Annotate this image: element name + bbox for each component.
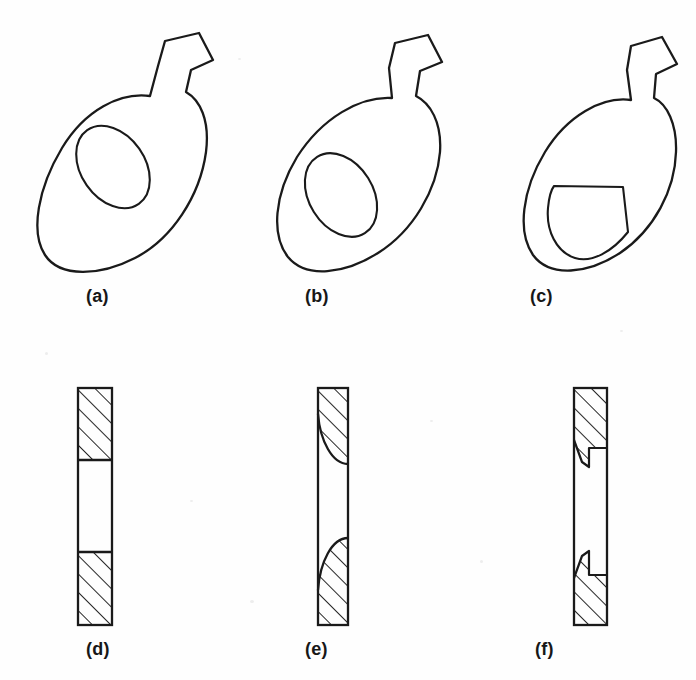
panel-b-drawing bbox=[277, 35, 442, 271]
panel-e-drawing bbox=[318, 388, 348, 625]
caption-e: (e) bbox=[305, 639, 328, 660]
panel-d-upper-hatch bbox=[78, 388, 112, 460]
panel-c-drawing bbox=[524, 37, 677, 271]
caption-c: (c) bbox=[530, 286, 553, 307]
caption-d: (d) bbox=[86, 639, 110, 660]
panel-a-drawing bbox=[37, 33, 213, 272]
panel-d-lower-hatch bbox=[78, 552, 112, 625]
panel-e-lower-hatch bbox=[318, 538, 348, 625]
figure-root: (a) (b) (c) (d) (e) (f) bbox=[0, 0, 696, 680]
panel-d-drawing bbox=[78, 388, 112, 625]
caption-a: (a) bbox=[86, 286, 109, 307]
caption-f: (f) bbox=[535, 639, 554, 660]
panel-f-drawing bbox=[574, 388, 607, 625]
engineering-drawing-canvas bbox=[0, 0, 696, 680]
panel-e-upper-hatch bbox=[318, 388, 348, 464]
caption-b: (b) bbox=[305, 286, 329, 307]
